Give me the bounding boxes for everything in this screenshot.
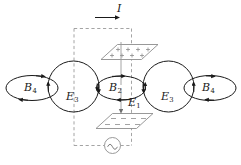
field-label-B4-left: B4 <box>24 82 37 95</box>
capacitor-bottom-plate <box>96 114 153 129</box>
field-loop-E3-right <box>143 61 194 112</box>
field-label-B4-right: B4 <box>202 82 215 95</box>
physics-field-diagram: I B4 E3 B2 E1 E3 B4 <box>0 0 241 165</box>
field-label-E3-left: E3 <box>66 91 79 104</box>
field-label-E1-center: E1 <box>128 97 141 110</box>
field-label-B2-center: B2 <box>109 82 122 95</box>
ac-source-circle <box>105 138 121 154</box>
field-label-E3-right: E3 <box>161 91 174 104</box>
field-loop-E3-left <box>48 61 99 112</box>
ac-source <box>105 138 121 154</box>
current-label: I <box>117 3 121 14</box>
capacitor-top-plate <box>101 45 158 60</box>
